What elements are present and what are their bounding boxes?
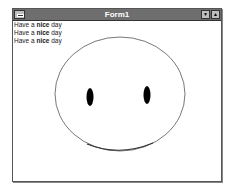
maximize-icon: ▲ xyxy=(213,12,218,17)
maximize-button[interactable]: ▲ xyxy=(211,10,220,19)
form1-window: Form1 ▼ ▲ Have a nice day Have a nice da… xyxy=(12,8,222,182)
smiley-drawing xyxy=(13,21,221,183)
face-outline xyxy=(55,37,185,151)
mouth xyxy=(87,143,153,150)
title-bar[interactable]: Form1 ▼ ▲ xyxy=(13,9,221,21)
minimize-icon: ▼ xyxy=(203,12,208,17)
window-title: Form1 xyxy=(13,9,221,20)
client-area: Have a nice day Have a nice day Have a n… xyxy=(13,21,221,181)
left-eye xyxy=(87,88,94,106)
right-eye xyxy=(144,86,151,104)
minimize-button[interactable]: ▼ xyxy=(201,10,210,19)
